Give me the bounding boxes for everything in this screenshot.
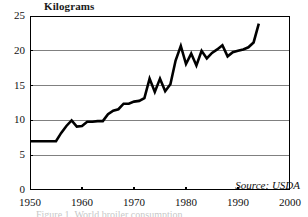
y-axis-tick-label: 25 (1, 10, 25, 21)
y-axis-tick-label: 10 (1, 114, 25, 125)
x-axis-tick-label: 1970 (114, 197, 154, 208)
y-axis-tick-label: 5 (1, 149, 25, 160)
y-axis-tick-label: 20 (1, 45, 25, 56)
chart-plot-svg (30, 16, 290, 190)
y-axis-unit-label: Kilograms (44, 0, 94, 13)
data-line-series (30, 24, 259, 142)
y-axis-tick-label: 15 (1, 80, 25, 91)
axis-ticks (30, 16, 290, 190)
source-annotation: Source: USDA (235, 179, 300, 191)
figure-caption: Figure 1. World broiler consumption (36, 209, 183, 217)
gridlines (30, 51, 290, 155)
plot-area (30, 16, 290, 190)
x-axis-tick-label: 1960 (62, 197, 102, 208)
x-axis-tick-label: 2000 (270, 197, 308, 208)
x-axis-tick-label: 1990 (218, 197, 258, 208)
x-axis-tick-label: 1950 (10, 197, 50, 208)
x-axis-tick-label: 1980 (166, 197, 206, 208)
y-axis-tick-label: 0 (1, 184, 25, 195)
chart-figure: Kilograms 0510152025 1950196019701980199… (0, 0, 308, 217)
plot-frame (31, 17, 290, 190)
